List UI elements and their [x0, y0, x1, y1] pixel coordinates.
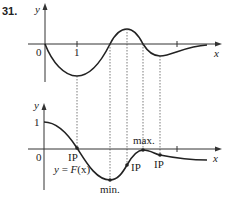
bottom-origin-label: 0 [36, 151, 42, 163]
top-y-arrow-icon [43, 3, 48, 10]
top-graph: y x 0 1 [28, 3, 222, 82]
top-curve [45, 29, 207, 76]
ip-label-2: IP [131, 161, 141, 173]
ip-point-2 [125, 163, 129, 167]
max-point [141, 148, 145, 152]
problem-number: 31. [2, 5, 17, 17]
curve-label: y = F(x) [53, 163, 91, 176]
bottom-x-arrow-icon [215, 147, 222, 152]
ip-point-1 [75, 146, 79, 150]
top-tick1-label: 1 [74, 46, 80, 58]
min-label: min. [100, 183, 120, 195]
figure: 31. y x 0 1 y 1 x 0 [0, 0, 228, 206]
bottom-y-tick1-label: 1 [34, 116, 40, 128]
bottom-y-arrow-icon [42, 103, 47, 110]
curve-label-arg: (x) [77, 163, 90, 176]
curve-label-eq: = [59, 163, 71, 175]
min-point [108, 178, 112, 182]
top-x-arrow-icon [215, 42, 222, 47]
ip-label-3: IP [154, 158, 164, 170]
top-y-label: y [34, 3, 40, 15]
top-origin-label: 0 [36, 46, 42, 58]
bottom-graph: y 1 x 0 IP min. IP max. IP y = F(x) [28, 99, 222, 195]
top-x-label: x [213, 47, 219, 59]
max-label: max. [133, 134, 155, 146]
ip-point-3 [158, 153, 162, 157]
ip-label-1: IP [68, 151, 78, 163]
dashed-guides [77, 29, 160, 180]
bottom-y-label: y [33, 99, 39, 111]
bottom-x-label: x [212, 152, 218, 164]
